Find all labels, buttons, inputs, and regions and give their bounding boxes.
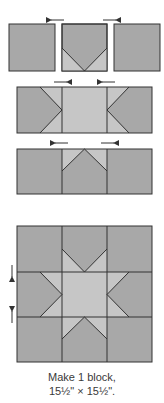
- caption-line-1: Make 1 block,: [0, 370, 164, 384]
- center-square: [62, 87, 107, 133]
- caption: Make 1 block, 15½" × 15½".: [0, 370, 164, 398]
- flying-geese-unit-down: [62, 24, 107, 71]
- row-3-units: [17, 143, 152, 194]
- row-2-units: [17, 82, 152, 133]
- row-1-units: [9, 20, 160, 71]
- flying-geese-unit-up: [62, 149, 107, 194]
- flying-geese-unit-left: [107, 87, 152, 133]
- caption-line-2: 15½" × 15½".: [0, 384, 164, 398]
- plain-square-left: [9, 24, 55, 71]
- flying-geese-unit-right: [17, 87, 62, 133]
- finished-block: [12, 226, 152, 362]
- plain-square-right: [114, 24, 160, 71]
- quilt-block-diagram: [0, 0, 164, 403]
